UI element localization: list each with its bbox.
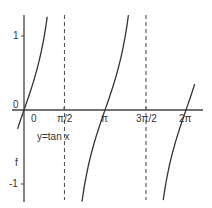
tan-curves — [18, 15, 195, 202]
x-tick-label-2pi: 2π — [179, 114, 191, 124]
tan-branch-3 — [163, 84, 194, 200]
function-label: y=tan x — [37, 132, 70, 142]
y-axis-name: f — [15, 158, 18, 168]
tan-branch-2 — [82, 15, 128, 202]
x-tick-label-0: 0 — [31, 114, 37, 124]
x-tick-label-pi-half: π/2 — [57, 114, 72, 124]
x-tick-label-pi: π — [101, 114, 108, 124]
x-tick-label-3pi-half: 3π/2 — [136, 114, 157, 124]
y-tick-label-0: 0 — [13, 100, 19, 110]
y-tick-label-1: 1 — [13, 31, 19, 41]
y-tick-label-minus-1: -1 — [9, 179, 18, 189]
tan-chart — [0, 0, 212, 208]
